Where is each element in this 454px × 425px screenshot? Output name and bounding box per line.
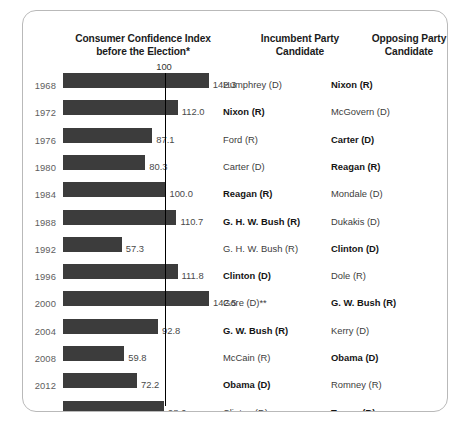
bar-value-label: 72.2 [141, 379, 159, 390]
column-header-incumbent-line1: Incumbent Party [261, 33, 339, 44]
column-header-cci-line1: Consumer Confidence Index [75, 33, 211, 44]
opposing-candidate-label: Trump (R) [331, 407, 375, 412]
incumbent-candidate-label: Ford (R) [223, 134, 258, 145]
bar-value-label: 57.3 [126, 243, 144, 254]
row-year-label: 2016 [23, 408, 56, 412]
row-year-label: 1972 [23, 107, 56, 118]
incumbent-candidate-label: Humphrey (D) [223, 79, 282, 90]
bar [63, 291, 209, 306]
opposing-candidate-label: Dukakis (D) [331, 216, 380, 227]
bar-value-label: 112.0 [182, 106, 205, 117]
row-year-label: 2012 [23, 380, 56, 391]
bar [63, 401, 164, 412]
table-row: 1968142.3Humphrey (D)Nixon (R) [23, 73, 448, 100]
table-row: 201698.6Clinton (D)Trump (R) [23, 401, 448, 412]
axis-tick-label-100: 100 [142, 61, 186, 72]
reference-line-100 [165, 73, 167, 406]
column-header-opposing-party: Opposing Party Candidate [353, 33, 448, 58]
row-year-label: 1980 [23, 162, 56, 173]
table-row: 201272.2Obama (D)Romney (R) [23, 373, 448, 400]
bar [63, 264, 178, 279]
bar [63, 237, 122, 252]
row-year-label: 1988 [23, 217, 56, 228]
incumbent-candidate-label: Reagan (R) [223, 188, 272, 199]
incumbent-candidate-label: Gore (D)** [223, 297, 267, 308]
incumbent-candidate-label: G. H. W. Bush (R) [223, 243, 298, 254]
incumbent-candidate-label: McCain (R) [223, 352, 270, 363]
opposing-candidate-label: Clinton (D) [331, 243, 379, 254]
opposing-candidate-label: Carter (D) [331, 134, 374, 145]
incumbent-candidate-label: Obama (D) [223, 379, 270, 390]
opposing-candidate-label: Nixon (R) [331, 79, 373, 90]
column-header-opposing-line2: Candidate [385, 46, 433, 57]
column-header-cci-line2: before the Election* [96, 46, 190, 57]
opposing-candidate-label: G. W. Bush (R) [331, 297, 396, 308]
incumbent-candidate-label: Clinton (D) [223, 270, 271, 281]
bar-value-label: 100.0 [169, 188, 192, 199]
row-year-label: 2000 [23, 298, 56, 309]
opposing-candidate-label: Dole (R) [331, 270, 366, 281]
opposing-candidate-label: McGovern (D) [331, 106, 390, 117]
opposing-candidate-label: Obama (D) [331, 352, 378, 363]
opposing-candidate-label: Romney (R) [331, 379, 382, 390]
column-header-consumer-confidence: Consumer Confidence Index before the Ele… [47, 33, 239, 58]
row-year-label: 1996 [23, 271, 56, 282]
column-header-incumbent-party: Incumbent Party Candidate [245, 33, 355, 58]
bar [63, 155, 145, 170]
bar [63, 128, 152, 143]
row-year-label: 1968 [23, 80, 56, 91]
bar [63, 73, 209, 88]
bar [63, 100, 178, 115]
row-year-label: 1976 [23, 135, 56, 146]
row-year-label: 2004 [23, 326, 56, 337]
bar-value-label: 59.8 [128, 352, 146, 363]
incumbent-candidate-label: Nixon (R) [223, 106, 265, 117]
bar-value-label: 110.7 [180, 216, 203, 227]
table-row: 200859.8McCain (R)Obama (D) [23, 346, 448, 373]
row-year-label: 2008 [23, 353, 56, 364]
bar [63, 210, 176, 225]
table-row: 1988110.7G. H. W. Bush (R)Dukakis (D) [23, 210, 448, 237]
opposing-candidate-label: Reagan (R) [331, 161, 380, 172]
chart-card: Consumer Confidence Index before the Ele… [22, 10, 448, 412]
incumbent-candidate-label: Carter (D) [223, 161, 265, 172]
table-row: 1996111.8Clinton (D)Dole (R) [23, 264, 448, 291]
table-row: 2000142.5Gore (D)**G. W. Bush (R) [23, 291, 448, 318]
bar [63, 373, 137, 388]
incumbent-candidate-label: Clinton (D) [223, 407, 268, 412]
bar [63, 182, 165, 197]
table-row: 200492.8G. W. Bush (R)Kerry (D) [23, 319, 448, 346]
bar [63, 319, 158, 334]
opposing-candidate-label: Mondale (D) [331, 188, 383, 199]
row-year-label: 1984 [23, 189, 56, 200]
table-row: 1972112.0Nixon (R)McGovern (D) [23, 100, 448, 127]
table-row: 199257.3G. H. W. Bush (R)Clinton (D) [23, 237, 448, 264]
table-row: 197687.1Ford (R)Carter (D) [23, 128, 448, 155]
table-row: 1984100.0Reagan (R)Mondale (D) [23, 182, 448, 209]
incumbent-candidate-label: G. W. Bush (R) [223, 325, 288, 336]
bar-chart-plot-area: 1968142.3Humphrey (D)Nixon (R)1972112.0N… [23, 73, 448, 403]
bar [63, 346, 124, 361]
column-header-incumbent-line2: Candidate [276, 46, 324, 57]
incumbent-candidate-label: G. H. W. Bush (R) [223, 216, 300, 227]
opposing-candidate-label: Kerry (D) [331, 325, 369, 336]
table-row: 198080.3Carter (D)Reagan (R) [23, 155, 448, 182]
column-header-opposing-line1: Opposing Party [372, 33, 446, 44]
bar-value-label: 111.8 [182, 270, 204, 281]
row-year-label: 1992 [23, 244, 56, 255]
bar-value-label: 98.6 [168, 407, 186, 412]
